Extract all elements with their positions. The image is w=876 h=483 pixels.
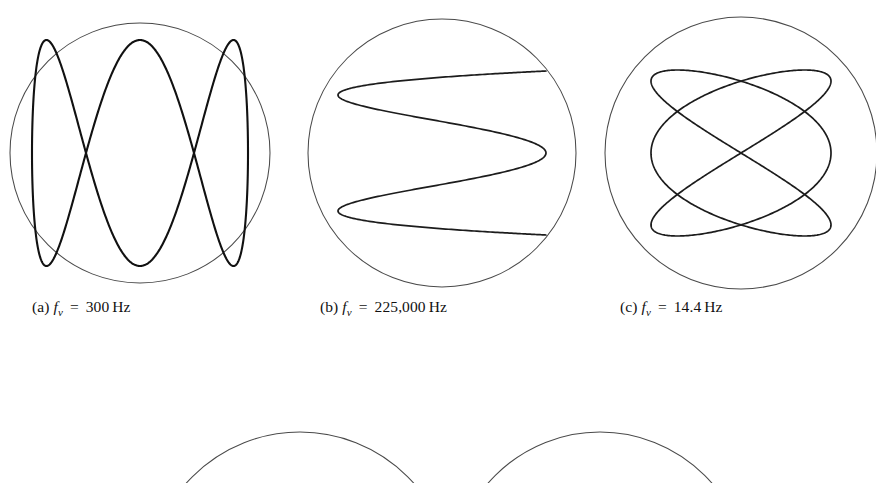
scope-display-e [452,420,792,483]
scope-display-a [0,14,290,304]
scope-panel-a [0,14,290,304]
caption-c-value: 14.4 [674,298,702,315]
caption-c-equals: = [658,298,667,315]
caption-a-equals: = [70,298,79,315]
caption-b-value: 225,000 [375,298,426,315]
caption-a-subscript: v [58,306,63,318]
caption-b: (b) fv = 225,000Hz [320,298,447,318]
lissajous-trace-c [651,70,831,236]
caption-b-unit: Hz [429,298,447,315]
caption-c-subscript: v [646,306,651,318]
scope-panel-c [601,14,876,304]
crt-bezel-circle-b [308,19,576,287]
caption-c: (c) fv = 14.4Hz [620,298,723,318]
caption-b-subscript: v [347,306,352,318]
caption-c-unit: Hz [704,298,722,315]
scope-panel-b [302,14,586,304]
caption-a-index: (a) [32,298,50,315]
caption-c-index: (c) [620,298,638,315]
scope-panel-e [452,420,792,483]
lissajous-trace-b [338,71,546,235]
scope-display-b [302,14,586,304]
caption-a-value: 300 [86,298,110,315]
scope-display-d [130,420,475,483]
caption-a: (a) fv = 300Hz [32,298,131,318]
scope-panel-d [130,420,475,483]
scope-display-c [601,14,876,304]
crt-bezel-circle-e [452,432,748,483]
caption-b-equals: = [359,298,368,315]
caption-b-index: (b) [320,298,338,315]
crt-bezel-circle-d [148,432,452,483]
lissajous-trace-a [32,40,248,266]
crt-bezel-circle-a [10,23,270,283]
caption-a-unit: Hz [112,298,130,315]
